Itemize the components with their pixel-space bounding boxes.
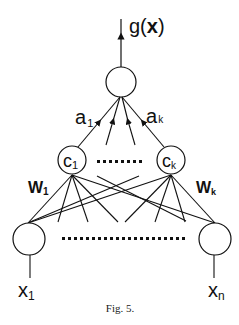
figure-caption: Fig. 5.: [106, 302, 135, 314]
input-label-xn: xn: [208, 279, 225, 303]
hidden-ellipsis: [97, 160, 142, 163]
edge-label-a1: a1: [75, 106, 93, 129]
output-node: [106, 67, 136, 97]
weight-label-w1: W1: [28, 179, 49, 197]
input-node-xn: [199, 223, 231, 255]
input-label-x1: x1: [18, 279, 35, 303]
neural-network-diagram: g(x) a1 ak c1 ck: [0, 0, 239, 325]
edge-label-ak: ak: [146, 105, 164, 127]
weight-label-wk: Wk: [196, 179, 217, 197]
input-node-x1: [13, 223, 45, 255]
output-label: g(x): [129, 15, 165, 37]
input-ellipsis: [62, 237, 185, 240]
input-edges: [28, 175, 215, 223]
input-stems: [30, 255, 214, 278]
